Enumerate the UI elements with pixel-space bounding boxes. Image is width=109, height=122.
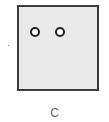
hole-right-icon [55,27,65,37]
hole-left-icon [30,27,40,37]
stray-mark [8,45,9,46]
figure-caption: C [0,106,109,120]
square-panel [17,5,99,91]
